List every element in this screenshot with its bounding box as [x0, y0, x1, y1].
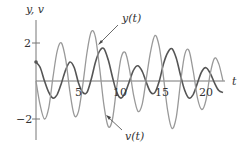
x-axis-label: t — [232, 75, 237, 88]
y-initial-point — [34, 60, 38, 64]
y-annotation-arrow — [100, 25, 118, 43]
x-tick-label-5: 5 — [75, 86, 82, 99]
y-tick-label-2: 2 — [24, 37, 31, 50]
y-axis-label: y, v — [25, 3, 45, 16]
x-tick-label-10: 10 — [113, 86, 127, 99]
y-annotation-label: y(t) — [121, 12, 141, 25]
chart: 2 −2 5 10 15 20 y, v t y(t) v(t) — [0, 0, 250, 155]
y-tick-label-neg2: −2 — [16, 113, 32, 126]
v-annotation-arrow — [108, 117, 122, 130]
curves — [34, 31, 223, 129]
x-tick-label-20: 20 — [199, 86, 213, 99]
x-tick-label-15: 15 — [155, 86, 169, 99]
v-annotation-label: v(t) — [125, 130, 144, 143]
